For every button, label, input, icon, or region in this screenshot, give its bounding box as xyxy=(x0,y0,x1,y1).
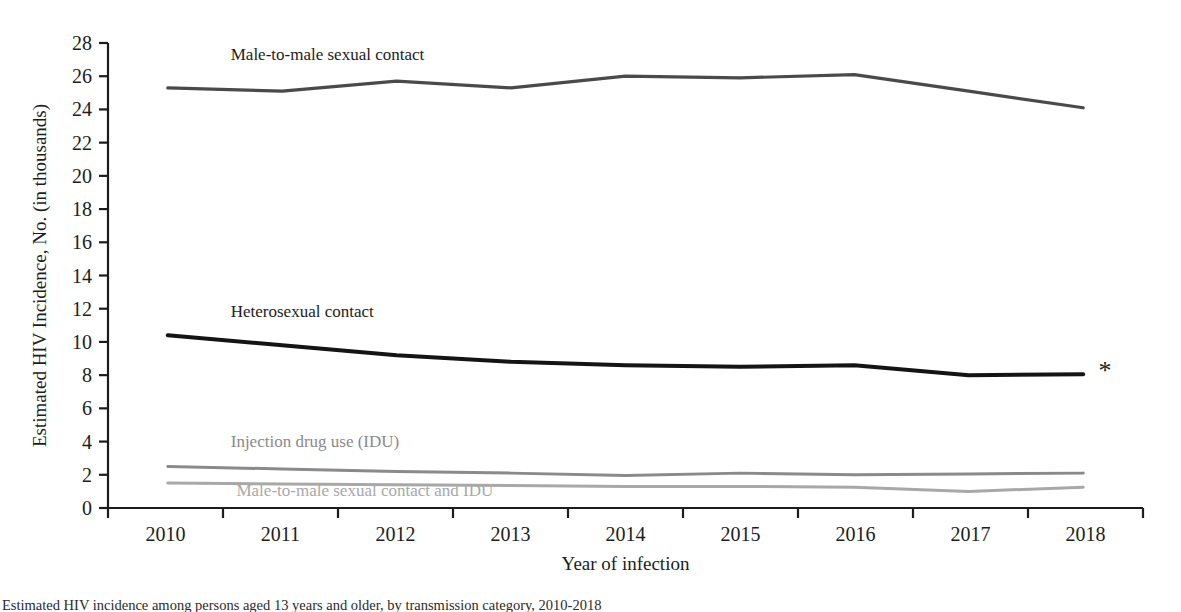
series-label-0: Male-to-male sexual contact xyxy=(231,45,425,64)
y-axis-tick-label: 22 xyxy=(72,132,92,154)
series-label-1: Heterosexual contact xyxy=(231,302,374,321)
y-axis-tick-label: 2 xyxy=(82,464,92,486)
y-axis-tick-label: 20 xyxy=(72,165,92,187)
y-axis-tick-label: 12 xyxy=(72,298,92,320)
y-axis-tick-label: 16 xyxy=(72,231,92,253)
series-line-2 xyxy=(168,466,1083,475)
y-axis-tick-label: 28 xyxy=(72,32,92,54)
hiv-incidence-line-chart: 0246810121416182022242628201020112012201… xyxy=(0,0,1181,612)
y-axis-tick-label: 26 xyxy=(72,65,92,87)
y-axis-tick-label: 4 xyxy=(82,431,92,453)
y-axis-tick-label: 24 xyxy=(72,98,92,120)
x-axis-tick-label: 2012 xyxy=(376,523,416,545)
series-line-1 xyxy=(168,335,1083,375)
x-axis-tick-label: 2011 xyxy=(261,523,300,545)
series-label-3: Male-to-male sexual contact and IDU xyxy=(236,481,493,500)
x-axis-tick-label: 2014 xyxy=(606,523,646,545)
y-axis-tick-label: 6 xyxy=(82,397,92,419)
y-axis-tick-label: 10 xyxy=(72,331,92,353)
figure-caption: Estimated HIV incidence among persons ag… xyxy=(2,597,1177,612)
x-axis-tick-label: 2018 xyxy=(1066,523,1106,545)
series-line-0 xyxy=(168,75,1083,108)
y-axis-tick-label: 14 xyxy=(72,265,92,287)
y-axis-tick-label: 8 xyxy=(82,364,92,386)
x-axis-tick-label: 2016 xyxy=(836,523,876,545)
y-axis-tick-label: 18 xyxy=(72,198,92,220)
x-axis-tick-label: 2017 xyxy=(951,523,991,545)
x-axis-tick-label: 2013 xyxy=(491,523,531,545)
x-axis-tick-label: 2015 xyxy=(721,523,761,545)
x-axis-tick-label: 2010 xyxy=(146,523,186,545)
series-label-2: Injection drug use (IDU) xyxy=(231,432,400,451)
figure-container: 0246810121416182022242628201020112012201… xyxy=(0,0,1181,612)
y-axis-tick-label: 0 xyxy=(82,497,92,519)
y-axis-title: Estimated HIV Incidence, No. (in thousan… xyxy=(29,104,51,447)
x-axis-title: Year of infection xyxy=(562,553,690,574)
footnote-asterisk: * xyxy=(1099,356,1112,385)
